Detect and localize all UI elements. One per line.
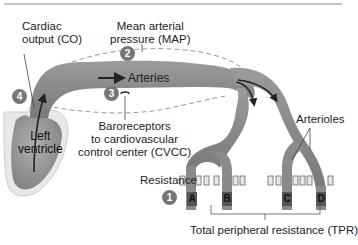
vessel-label-c: C — [282, 192, 292, 206]
baroreceptors-line1: Baroreceptors — [78, 120, 191, 133]
baroreceptors-line3: control center (CVCC) — [78, 146, 191, 159]
arteries-label: Arteries — [128, 72, 169, 85]
vessel-label-b: B — [222, 192, 232, 206]
vessel-label-d: D — [316, 192, 326, 206]
tpr-label: Total peripheral resistance (TPR) — [190, 224, 358, 237]
baroreceptor-icon — [121, 92, 129, 94]
step-badge-4: 4 — [12, 89, 27, 104]
left-ventricle-label: Left ventricle — [18, 130, 63, 156]
map-line1: Mean arterial — [110, 20, 191, 33]
arterioles-label: Arterioles — [296, 113, 345, 126]
cardiac-output-line2: output (CO) — [22, 33, 82, 46]
baroreceptors-line2: to cardiovascular — [78, 133, 191, 146]
left-ventricle-line2: ventricle — [18, 143, 63, 156]
step-badge-2: 2 — [120, 46, 135, 61]
map-label: Mean arterial pressure (MAP) — [110, 20, 191, 46]
vessel-label-a: A — [187, 192, 197, 206]
step-badge-1: 1 — [162, 190, 177, 205]
resistor-symbols — [180, 176, 333, 185]
cardiac-output-label: Cardiac output (CO) — [22, 20, 82, 46]
map-dashed-envelope-lower — [46, 96, 226, 113]
resistance-label: Resistance — [140, 174, 197, 187]
cardiac-output-line1: Cardiac — [22, 20, 82, 33]
map-line2: pressure (MAP) — [110, 33, 191, 46]
aorta-vessel — [30, 61, 255, 118]
step-badge-3: 3 — [104, 86, 119, 101]
baroreceptors-label: Baroreceptors to cardiovascular control … — [78, 120, 191, 159]
